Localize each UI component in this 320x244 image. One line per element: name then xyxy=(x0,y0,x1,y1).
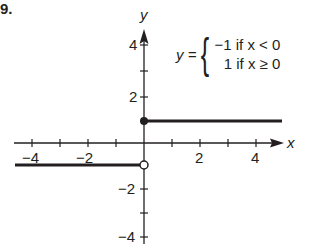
brace-icon: { xyxy=(201,34,209,74)
x-axis-arrow-icon xyxy=(270,139,284,148)
y-axis-label: y xyxy=(139,6,149,23)
y-tick-label-neg2: −2 xyxy=(118,180,135,197)
x-tick-label-neg4: −4 xyxy=(22,149,39,166)
equation-lhs: y = xyxy=(176,46,196,63)
y-tick-label-neg4: −4 xyxy=(118,228,135,244)
piecewise-equation: y = { −1 if x < 0 1 if x ≥ 0 xyxy=(176,34,280,74)
closed-endpoint-icon xyxy=(140,117,148,125)
open-endpoint-icon xyxy=(140,161,148,169)
equation-case-1: −1 if x < 0 xyxy=(214,35,280,54)
x-axis-label: x xyxy=(286,134,295,151)
y-tick-label-2: 2 xyxy=(129,88,137,105)
x-tick-label-2: 2 xyxy=(195,149,203,166)
y-tick-label-4: 4 xyxy=(129,36,137,53)
x-tick-label-neg2: −2 xyxy=(76,149,93,166)
equation-case-2: 1 if x ≥ 0 xyxy=(214,54,280,73)
x-tick-label-4: 4 xyxy=(251,149,259,166)
